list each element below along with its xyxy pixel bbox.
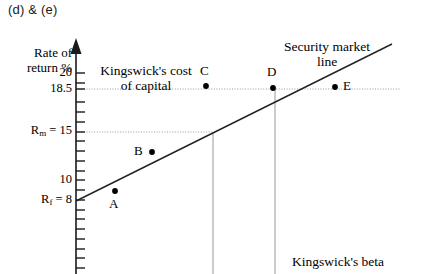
- x-axis-title: Kingswick's beta: [292, 255, 422, 269]
- y-axis-arrow-icon: [71, 38, 82, 54]
- y-axis-ticks: [76, 73, 85, 268]
- point-label-b: B: [134, 144, 143, 158]
- point-label-c: C: [200, 64, 209, 78]
- rm-symbol: R: [31, 123, 39, 137]
- annotation-sml-line1: Security market: [266, 40, 388, 54]
- point-label-e: E: [343, 79, 351, 93]
- y-tick-label-rm: Rm = 15: [8, 124, 72, 138]
- y-axis-title-line1: Rate of: [14, 46, 72, 60]
- annotation-cost-of-capital-line2: of capital: [84, 79, 208, 93]
- y-tick-label-18-5: 18.5: [12, 82, 72, 95]
- y-tick-label-20: 20: [22, 66, 72, 79]
- point-label-a: A: [109, 197, 118, 211]
- rm-value: = 15: [46, 123, 72, 137]
- annotation-sml-line2: line: [266, 55, 388, 69]
- data-point-b: [149, 149, 155, 155]
- point-label-d: D: [267, 65, 276, 79]
- annotation-cost-of-capital-line1: Kingswick's cost: [84, 64, 208, 78]
- y-tick-label-rf: Rf = 8: [8, 193, 72, 207]
- y-tick-label-10: 10: [22, 173, 72, 186]
- figure-root: (d) & (e): [0, 0, 433, 274]
- data-point-e: [332, 84, 338, 90]
- rf-value: = 8: [52, 192, 72, 206]
- data-point-a: [112, 188, 118, 194]
- data-point-d: [270, 85, 276, 91]
